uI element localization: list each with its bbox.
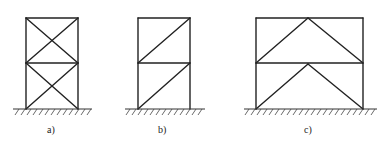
ground-support-a bbox=[13, 109, 92, 115]
panel-label-a: a) bbox=[47, 124, 55, 136]
frame-b: b) bbox=[125, 18, 205, 136]
panel-label-b: b) bbox=[158, 124, 166, 136]
frame-c: c) bbox=[244, 18, 377, 136]
panel-label-c: c) bbox=[304, 124, 312, 136]
braced-frames-diagram: a) b) bbox=[0, 0, 385, 148]
ground-support-b bbox=[125, 109, 205, 115]
ground-support-c bbox=[244, 109, 377, 115]
frame-a: a) bbox=[13, 18, 92, 136]
